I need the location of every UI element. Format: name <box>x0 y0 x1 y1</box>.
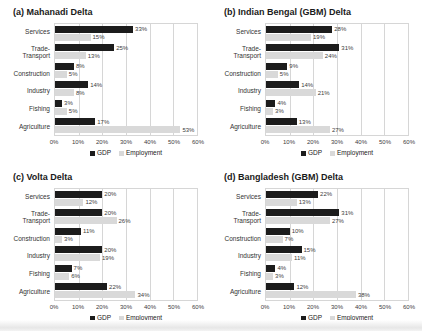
employment-legend-marker <box>330 151 335 156</box>
value-label: 6% <box>71 273 80 279</box>
value-label: 5% <box>69 71 78 77</box>
bar-group: 12%38% <box>266 283 408 298</box>
x-tick-label: 50% <box>168 304 180 310</box>
employment-legend-label: Employment <box>337 150 373 157</box>
bar-group: 3%5% <box>55 100 197 115</box>
x-axis: 0%10%20%30%40%50%60% <box>54 303 198 311</box>
value-label: 15% <box>304 247 316 253</box>
bar-employment <box>266 254 292 261</box>
x-tick-label: 60% <box>192 304 204 310</box>
x-tick-label: 20% <box>307 304 319 310</box>
x-tick-label: 0% <box>261 139 270 145</box>
chart: ServicesTrade-TransportConstructionIndus… <box>218 188 409 322</box>
category-label: Construction <box>218 236 265 243</box>
bar-employment <box>266 236 283 243</box>
bar-employment <box>55 236 62 243</box>
x-tick-label: 40% <box>355 139 367 145</box>
bar-group: 22%34% <box>55 283 197 298</box>
bar-gdp <box>55 26 133 33</box>
value-label: 13% <box>299 199 311 205</box>
x-axis: 0%10%20%30%40%50%60% <box>265 303 409 311</box>
gdp-legend-label: GDP <box>97 150 111 157</box>
gdp-legend-label: GDP <box>308 150 322 157</box>
bar-gdp <box>55 100 62 107</box>
x-tick-label: 30% <box>331 304 343 310</box>
value-label: 11% <box>83 228 95 234</box>
x-tick-label: 0% <box>261 304 270 310</box>
plot-area: 33%15%25%13%8%5%14%8%3%5%17%53% <box>54 23 198 136</box>
gdp-legend-marker <box>90 151 95 156</box>
plot-area: 28%19%31%24%9%5%14%21%4%3%13%27% <box>265 23 409 136</box>
bar-employment <box>266 34 311 41</box>
employment-legend-label: Employment <box>126 150 162 157</box>
bar-employment <box>55 254 100 261</box>
bar-gdp <box>55 246 102 253</box>
value-label: 10% <box>292 228 304 234</box>
category-label: Services <box>7 29 54 36</box>
bar-gdp <box>55 63 74 70</box>
bar-employment <box>266 291 356 298</box>
bar-employment <box>266 217 330 224</box>
chart-title: (d) Bangladesh (GBM) Delta <box>224 173 422 183</box>
category-label: Construction <box>7 236 54 243</box>
x-tick-label: 20% <box>307 139 319 145</box>
bar-gdp <box>55 191 102 198</box>
value-label: 19% <box>102 255 114 261</box>
bar-gdp <box>266 191 318 198</box>
category-label: Services <box>7 194 54 201</box>
bar-gdp <box>55 265 72 272</box>
bar-gdp <box>266 63 287 70</box>
chart: ServicesTrade-TransportConstructionIndus… <box>7 188 198 322</box>
x-axis: 0%10%20%30%40%50%60% <box>265 138 409 146</box>
value-label: 15% <box>93 34 105 40</box>
bar-employment <box>55 71 67 78</box>
x-axis: 0%10%20%30%40%50%60% <box>54 138 198 146</box>
bar-employment <box>55 199 83 206</box>
bar-group: 20%12% <box>55 191 197 206</box>
value-label: 19% <box>313 34 325 40</box>
x-tick-label: 50% <box>379 304 391 310</box>
value-label: 4% <box>277 100 286 106</box>
value-label: 9% <box>289 63 298 69</box>
bar-gdp <box>266 100 275 107</box>
bar-gdp <box>55 81 88 88</box>
value-label: 34% <box>137 292 149 298</box>
value-label: 27% <box>332 127 344 133</box>
bar-group: 7%6% <box>55 265 197 280</box>
bar-gdp <box>266 44 339 51</box>
x-tick-label: 30% <box>331 139 343 145</box>
value-label: 22% <box>320 191 332 197</box>
chart-panel-b: (b) Indian Bengal (GBM) Delta ServicesTr… <box>211 0 422 165</box>
x-tick-label: 40% <box>144 139 156 145</box>
category-axis: ServicesTrade-TransportConstructionIndus… <box>218 188 265 301</box>
x-tick-label: 50% <box>168 139 180 145</box>
legend: GDP Employment <box>54 150 198 157</box>
value-label: 5% <box>280 71 289 77</box>
bar-group: 4%3% <box>266 100 408 115</box>
legend: GDP Employment <box>265 150 409 157</box>
value-label: 3% <box>275 273 284 279</box>
bar-employment <box>55 217 117 224</box>
x-tick-label: 30% <box>120 139 132 145</box>
bar-group: 14%21% <box>266 81 408 96</box>
category-label: Construction <box>7 71 54 78</box>
bar-gdp <box>266 26 332 33</box>
x-tick-label: 20% <box>96 139 108 145</box>
category-label: Trade-Transport <box>218 46 265 59</box>
bar-group: 4%3% <box>266 265 408 280</box>
value-label: 53% <box>182 127 194 133</box>
value-label: 20% <box>104 191 116 197</box>
x-tick-label: 10% <box>283 304 295 310</box>
category-label: Trade-Transport <box>218 211 265 224</box>
value-label: 14% <box>90 82 102 88</box>
value-label: 17% <box>97 119 109 125</box>
bar-group: 14%8% <box>55 81 197 96</box>
bar-employment <box>266 52 323 59</box>
chart-panel-a: (a) Mahanadi Delta ServicesTrade-Transpo… <box>0 0 211 165</box>
bar-gdp <box>266 209 339 216</box>
bar-employment <box>266 273 273 280</box>
value-label: 20% <box>104 247 116 253</box>
bar-employment <box>55 34 91 41</box>
category-axis: ServicesTrade-TransportConstructionIndus… <box>218 23 265 136</box>
value-label: 21% <box>318 90 330 96</box>
